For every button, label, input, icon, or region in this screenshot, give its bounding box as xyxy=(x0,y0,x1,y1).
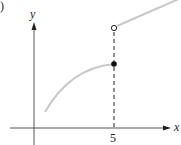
x-axis-arrow-icon xyxy=(163,126,171,131)
panel-label: ) xyxy=(0,0,4,13)
filled-point xyxy=(111,61,117,67)
open-point xyxy=(111,25,116,30)
y-axis-label: y xyxy=(29,7,36,21)
graph: ) x y 5 xyxy=(0,0,181,145)
x-axis-label: x xyxy=(173,120,180,134)
left-curve xyxy=(45,64,114,112)
x-tick-5: 5 xyxy=(110,131,116,145)
right-line xyxy=(117,0,181,26)
y-axis-arrow-icon xyxy=(32,22,37,30)
